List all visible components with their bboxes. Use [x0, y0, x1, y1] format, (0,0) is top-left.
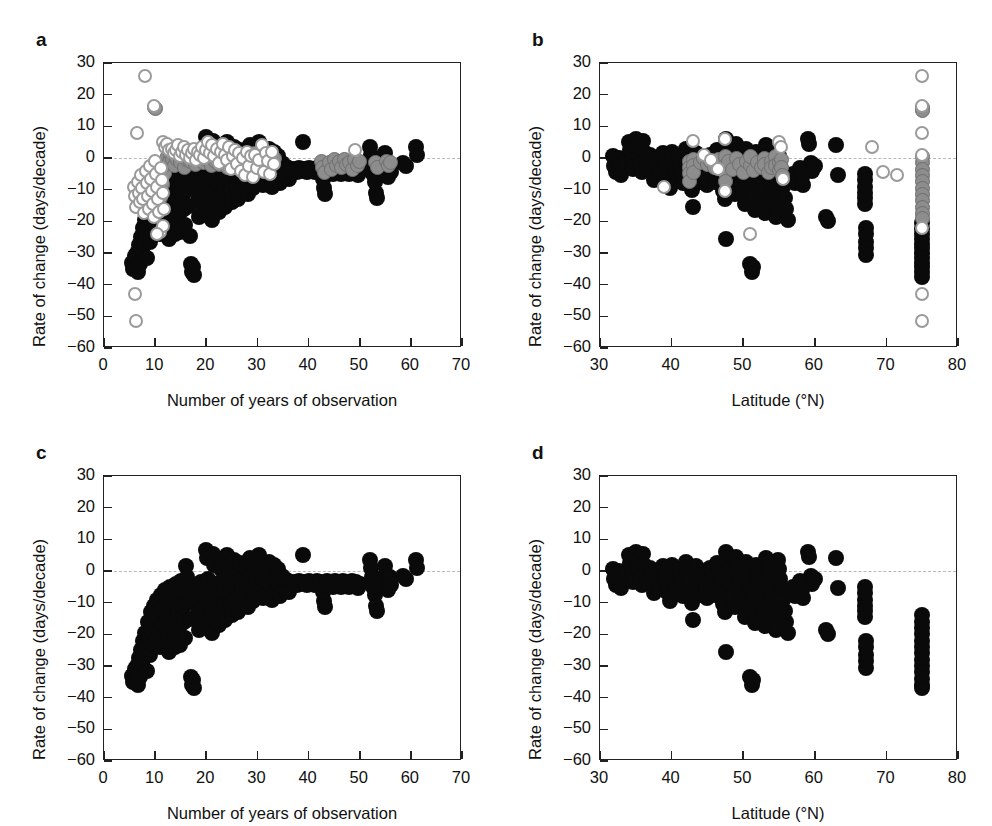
y-tick-label-c-8: −50: [45, 718, 95, 737]
y-tick-label-a-7: −40: [45, 274, 95, 293]
data-point-a-black-filled: [139, 250, 155, 266]
y-tick-label-a-0: 30: [45, 52, 95, 71]
data-point-b-gray-open: [915, 314, 929, 328]
y-tick-label-b-7: −40: [541, 274, 591, 293]
x-tick-label-b-1: 40: [646, 355, 696, 374]
y-tick-label-a-4: −10: [45, 179, 95, 198]
panel-a: aRate of change (days/decade)Number of y…: [0, 0, 496, 413]
plot-area-b: [599, 62, 957, 347]
data-point-b-gray-open: [686, 134, 700, 148]
x-tick-label-d-4: 70: [860, 768, 910, 787]
y-tick-label-a-3: 0: [45, 147, 95, 166]
x-tick-c-0: [103, 751, 105, 759]
x-tick-label-c-1: 10: [129, 768, 179, 787]
y-tick-label-a-8: −50: [45, 305, 95, 324]
data-point-d-black-filled: [807, 571, 823, 587]
data-point-b-black-filled: [718, 231, 734, 247]
data-point-a-gray-open: [129, 314, 143, 328]
x-axis-label-d: Latitude (°N): [599, 804, 957, 823]
data-point-c-black-filled: [139, 663, 155, 679]
y-tick-label-d-9: −60: [541, 750, 591, 769]
y-tick-label-c-5: −20: [45, 623, 95, 642]
data-point-c-black-filled: [369, 603, 385, 619]
data-point-d-black-filled: [857, 609, 873, 625]
data-point-b-gray-open: [657, 180, 671, 194]
data-point-b-gray-open: [915, 148, 929, 162]
y-tick-label-c-0: 30: [45, 465, 95, 484]
data-point-d-black-filled: [685, 612, 701, 628]
data-point-c-black-filled: [409, 560, 425, 576]
data-point-d-black-filled: [780, 625, 796, 641]
x-tick-label-b-3: 60: [789, 355, 839, 374]
data-point-d-black-filled: [828, 550, 844, 566]
x-tick-b-3: [814, 338, 816, 346]
y-tick-c-4: [104, 602, 112, 604]
y-tick-label-a-5: −20: [45, 210, 95, 229]
y-tick-label-b-6: −30: [541, 242, 591, 261]
data-point-a-black-filled: [186, 267, 202, 283]
y-tick-c-8: [104, 729, 112, 731]
x-tick-a-2: [205, 338, 207, 346]
y-tick-b-0: [600, 62, 608, 64]
x-tick-label-c-0: 0: [78, 768, 128, 787]
y-tick-c-7: [104, 697, 112, 699]
x-tick-a-4: [308, 338, 310, 346]
data-point-a-black-filled: [317, 186, 333, 202]
y-tick-b-8: [600, 316, 608, 318]
figure-container: aRate of change (days/decade)Number of y…: [0, 0, 992, 826]
y-tick-label-a-2: 10: [45, 115, 95, 134]
x-tick-a-0: [103, 338, 105, 346]
data-point-b-gray-open: [876, 165, 890, 179]
y-tick-a-3: [104, 157, 112, 159]
data-point-b-black-filled: [828, 137, 844, 153]
data-point-b-gray-open: [915, 221, 929, 235]
data-point-a-gray-open: [157, 202, 171, 216]
data-point-b-gray-open: [915, 99, 929, 113]
x-tick-label-a-2: 20: [180, 355, 230, 374]
y-tick-a-8: [104, 316, 112, 318]
data-point-b-gray-open: [774, 140, 788, 154]
y-tick-label-a-1: 20: [45, 84, 95, 103]
y-tick-label-b-4: −10: [541, 179, 591, 198]
x-tick-c-2: [205, 751, 207, 759]
x-axis-label-a: Number of years of observation: [103, 391, 461, 410]
y-tick-c-2: [104, 539, 112, 541]
y-tick-label-b-2: 10: [541, 115, 591, 134]
data-point-b-black-filled: [830, 167, 846, 183]
data-point-a-black-filled: [295, 134, 311, 150]
y-tick-d-1: [600, 507, 608, 509]
data-point-b-gray-open: [915, 287, 929, 301]
x-tick-label-b-2: 50: [717, 355, 767, 374]
y-tick-a-4: [104, 189, 112, 191]
y-tick-label-d-2: 10: [541, 528, 591, 547]
x-tick-label-a-1: 10: [129, 355, 179, 374]
x-tick-b-1: [671, 338, 673, 346]
y-tick-label-b-9: −60: [541, 337, 591, 356]
y-tick-label-c-1: 20: [45, 497, 95, 516]
data-point-d-black-filled: [820, 626, 836, 642]
data-point-d-black-filled: [795, 590, 811, 606]
y-tick-d-0: [600, 475, 608, 477]
y-tick-b-6: [600, 252, 608, 254]
panel-d: dRate of change (days/decade)Latitude (°…: [496, 413, 992, 826]
y-tick-label-b-0: 30: [541, 52, 591, 71]
x-tick-c-1: [154, 751, 156, 759]
x-tick-label-d-2: 50: [717, 768, 767, 787]
data-point-b-black-filled: [780, 212, 796, 228]
y-tick-label-a-9: −60: [45, 337, 95, 356]
x-tick-label-c-7: 70: [436, 768, 486, 787]
panel-label-c: c: [36, 443, 47, 462]
panel-label-a: a: [36, 30, 47, 49]
y-tick-c-0: [104, 475, 112, 477]
x-tick-label-a-3: 30: [231, 355, 281, 374]
data-point-b-gray-open: [890, 168, 904, 182]
x-tick-label-a-6: 60: [385, 355, 435, 374]
x-tick-b-2: [742, 338, 744, 346]
y-tick-label-b-5: −20: [541, 210, 591, 229]
x-tick-a-5: [359, 338, 361, 346]
y-tick-label-d-5: −20: [541, 623, 591, 642]
y-tick-a-9: [104, 347, 112, 349]
x-tick-c-6: [410, 751, 412, 759]
x-tick-label-b-0: 30: [574, 355, 624, 374]
x-tick-b-0: [599, 338, 601, 346]
